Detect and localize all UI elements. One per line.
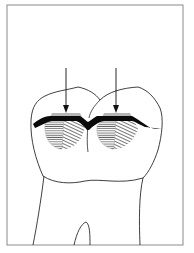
cervical-line	[43, 176, 143, 183]
distal-root-outline	[139, 178, 143, 245]
root-furcation	[74, 222, 90, 245]
left-arrow-head-icon	[63, 105, 69, 113]
tooth-diagram	[0, 0, 194, 253]
mesial-root-outline	[33, 176, 44, 245]
right-arrow-head-icon	[113, 105, 119, 113]
figure-frame	[7, 5, 183, 245]
cusp-groove	[89, 100, 100, 118]
